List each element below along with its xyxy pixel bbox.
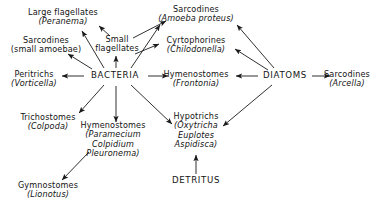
- node-bacteria: BACTERIA: [91, 71, 139, 80]
- edge-bacteria-to-hypotrichs: [131, 85, 172, 124]
- node-label-line: (Vorticella): [11, 79, 57, 88]
- edge-diatoms-to-hypotrichs: [223, 85, 272, 126]
- node-sarcodines-arcella: Sarcodines(Arcella): [324, 70, 370, 89]
- node-label-line: DETRITUS: [172, 176, 220, 185]
- node-label-line: Pleuronema): [80, 149, 145, 158]
- node-label-line: (Amoeba proteus): [158, 14, 234, 23]
- node-cyrtophorines: Cyrtophorines(Chilodonella): [167, 36, 226, 55]
- node-label-line: (Colpoda): [20, 122, 75, 131]
- node-label-line: (Frontonia): [163, 79, 228, 88]
- node-label-line: flagellates: [95, 44, 139, 53]
- node-peritrichs: Peritrichs(Vorticella): [11, 70, 57, 89]
- node-diatoms: DIATOMS: [263, 71, 307, 80]
- node-hypotrichs: Hypotrichs(OxytrichaEuplotesAspidisca): [173, 112, 218, 149]
- edge-bacteria-to-sarcodines-small-amoebae: [68, 54, 92, 69]
- edge-bacteria-to-trichostomes: [79, 85, 104, 113]
- node-small-flagellates: Smallflagellates: [95, 35, 139, 54]
- node-label-line: (Lionotus): [18, 190, 78, 199]
- node-label-line: Aspidisca): [173, 140, 218, 149]
- edge-diatoms-to-cyrtophorines: [235, 49, 268, 70]
- node-hymenostomes-frontonia: Hymenostomes(Frontonia): [163, 70, 228, 89]
- node-large-flagellates: Large flagellates(Peranema): [28, 8, 98, 27]
- node-trichostomes: Trichostomes(Colpoda): [20, 113, 75, 132]
- node-label-line: (Peranema): [28, 17, 98, 26]
- node-hymenostomes-paramecium: Hymenostomes(ParameciumColpidiumPleurone…: [80, 121, 145, 158]
- node-detritus: DETRITUS: [172, 176, 220, 185]
- node-label-line: (small amoebae): [11, 45, 82, 54]
- node-label-line: BACTERIA: [91, 71, 139, 80]
- node-label-line: (Chilodonella): [167, 45, 226, 54]
- diagram-canvas: Large flagellates(Peranema)Sarcodines(Am…: [0, 0, 374, 207]
- node-sarcodines-amoeba-proteus: Sarcodines(Amoeba proteus): [158, 5, 234, 24]
- node-label-line: DIATOMS: [263, 71, 307, 80]
- node-sarcodines-small-amoebae: Sarcodines(small amoebae): [11, 36, 82, 55]
- node-gymnostomes: Gymnostomes(Lionotus): [18, 181, 78, 200]
- node-label-line: (Arcella): [324, 79, 370, 88]
